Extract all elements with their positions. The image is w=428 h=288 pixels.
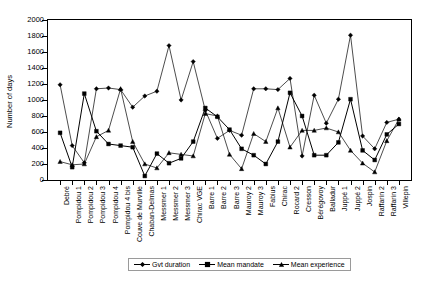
legend-item-label: Gvt duration [152, 261, 190, 268]
y-axis-tick-mark [42, 84, 47, 85]
data-point-square [107, 142, 111, 146]
data-point-square [385, 133, 389, 137]
y-axis-tick-label: 600 [14, 128, 44, 136]
data-point-triangle [385, 139, 389, 143]
data-point-triangle [227, 152, 231, 156]
x-axis-tick-mark [169, 181, 170, 185]
data-point-triangle [373, 170, 377, 174]
x-axis-tick-mark [145, 181, 146, 185]
x-axis-tick-label: Jospin [366, 186, 373, 206]
data-point-square [58, 131, 62, 135]
y-axis-tick-label: 200 [14, 160, 44, 168]
x-axis-tick-label: Juppé 1 [341, 186, 348, 211]
series-line [60, 35, 399, 163]
x-axis-tick-label: Barre 2 [220, 186, 227, 209]
data-point-square [337, 141, 341, 145]
x-axis-tick-mark [181, 181, 182, 185]
data-point-square [324, 153, 328, 157]
x-axis-tick-mark [205, 181, 206, 185]
y-axis-tick-label: 400 [14, 144, 44, 152]
x-axis-tick-label: Pompidou 2 [87, 186, 94, 223]
data-point-diamond [300, 154, 304, 158]
data-point-square [361, 149, 365, 153]
x-axis-tick-mark [157, 181, 158, 185]
x-axis-tick-label: Balladur [329, 186, 336, 212]
x-axis-tick-mark [230, 181, 231, 185]
data-point-square [167, 161, 171, 165]
x-axis-tick-label: Raffarin 3 [390, 186, 397, 216]
data-point-square [228, 128, 232, 132]
data-point-diamond [191, 59, 195, 63]
data-point-square [312, 153, 316, 157]
legend-square-icon [199, 261, 215, 268]
x-axis-tick-label: Bérégovoy [317, 186, 324, 219]
x-axis-tick-label: Villepin [402, 186, 409, 208]
data-point-triangle [143, 162, 147, 166]
x-axis-tick-label: Messmer 3 [184, 186, 191, 221]
x-axis-tick-mark [84, 181, 85, 185]
x-axis-tick-label: Chirac VGE [196, 186, 203, 223]
y-axis-tick-mark [42, 36, 47, 37]
y-axis-tick-mark [42, 164, 47, 165]
x-axis-tick-label: Raffarin 2 [378, 186, 385, 216]
x-axis-tick-mark [375, 181, 376, 185]
y-axis-tick-mark [42, 52, 47, 53]
data-point-diamond [239, 133, 243, 137]
data-point-square [131, 145, 135, 149]
data-point-square [179, 157, 183, 161]
data-point-diamond [58, 83, 62, 87]
x-axis-tick-label: Cresson [305, 186, 312, 212]
x-axis-tick-mark [60, 181, 61, 185]
x-axis-tick-mark [351, 181, 352, 185]
data-point-triangle [348, 148, 352, 152]
y-axis-tick-label: 1800 [14, 32, 44, 40]
x-axis-tick-mark [121, 181, 122, 185]
data-point-square [155, 152, 159, 156]
x-axis-tick-mark [242, 181, 243, 185]
data-point-triangle [58, 159, 62, 163]
data-point-diamond [94, 87, 98, 91]
x-axis-tick-mark [399, 181, 400, 185]
data-point-diamond [252, 87, 256, 91]
data-point-diamond [70, 143, 74, 147]
x-axis-tick-mark [217, 181, 218, 185]
x-axis-tick-mark [72, 181, 73, 185]
legend-item[interactable]: Gvt duration [134, 261, 190, 268]
legend-item-label: Mean experience [291, 261, 345, 268]
x-axis-tick-label: Couve de Murville [136, 186, 143, 242]
x-axis-tick-labels: DebréPompidou 1Pompidou 2Pompidou 3Pompi… [0, 186, 428, 256]
y-axis-tick-label: 1200 [14, 80, 44, 88]
data-point-square [95, 129, 99, 133]
data-point-square [349, 97, 353, 101]
chart-figure: Number of days 0200400600800100012001400… [0, 0, 428, 288]
x-axis-tick-mark [266, 181, 267, 185]
y-axis-tick-label: 1600 [14, 48, 44, 56]
y-axis-tick-label: 1400 [14, 64, 44, 72]
data-point-diamond [167, 43, 171, 47]
legend-item[interactable]: Mean mandate [199, 261, 264, 268]
legend-item-label: Mean mandate [217, 261, 264, 268]
data-point-square [288, 91, 292, 95]
x-axis-tick-mark [109, 181, 110, 185]
x-axis-tick-label: Messmer 2 [172, 186, 179, 221]
data-point-diamond [179, 98, 183, 102]
data-point-diamond [312, 93, 316, 97]
series-line [60, 93, 399, 176]
data-point-triangle [118, 87, 122, 91]
data-point-diamond [336, 97, 340, 101]
x-axis-tick-mark [193, 181, 194, 185]
data-point-square [264, 162, 268, 166]
x-axis-tick-label: Juppé 2 [354, 186, 361, 211]
legend-item[interactable]: Mean experience [273, 261, 345, 268]
x-axis-tick-label: Fabius [269, 186, 276, 207]
data-point-square [191, 140, 195, 144]
data-point-triangle [324, 126, 328, 130]
data-point-square [300, 114, 304, 118]
x-axis-tick-label: Pompidou 4 bis [124, 186, 131, 234]
x-axis-tick-mark [96, 181, 97, 185]
data-point-square [143, 174, 147, 178]
data-point-diamond [264, 87, 268, 91]
data-point-square [252, 153, 256, 157]
x-axis-tick-mark [387, 181, 388, 185]
data-point-square [373, 158, 377, 162]
